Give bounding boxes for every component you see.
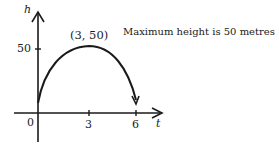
y-axis-label: h — [24, 4, 31, 15]
parabola-curve — [38, 46, 136, 103]
graph-canvas — [0, 0, 279, 149]
tick-label-50: 50 — [17, 43, 31, 54]
tick-label-3: 3 — [85, 119, 92, 130]
origin-label: 0 — [27, 117, 34, 128]
peak-annotation: (3, 50) — [70, 30, 108, 42]
x-axis-label: t — [156, 118, 160, 129]
max-height-note: Maximum height is 50 metres — [123, 27, 275, 37]
tick-label-6: 6 — [132, 119, 139, 130]
